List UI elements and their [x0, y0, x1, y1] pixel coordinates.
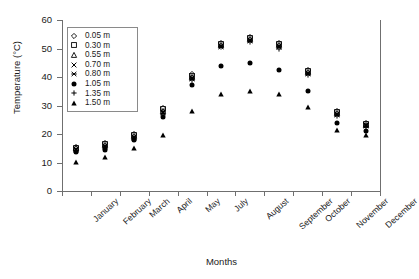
legend-label: 0.55 m — [85, 50, 110, 60]
data-point — [73, 159, 79, 165]
data-point — [247, 88, 253, 94]
data-point — [305, 88, 311, 94]
legend-label: 0.30 m — [85, 41, 110, 51]
data-point — [305, 72, 311, 78]
y-tick — [57, 134, 62, 135]
data-point — [131, 136, 137, 142]
x-tick — [235, 191, 236, 196]
y-tick-label: 50 — [18, 44, 52, 54]
plot-right-border — [380, 20, 381, 192]
chart-legend: 0.05 m0.30 m0.55 m0.70 m0.80 m1.05 m1.35… — [67, 27, 138, 112]
data-point — [131, 145, 137, 151]
data-point — [305, 104, 311, 110]
cross-icon — [71, 62, 84, 68]
y-tick-label: 40 — [18, 72, 52, 82]
data-point — [334, 127, 340, 133]
data-point — [102, 154, 108, 160]
legend-item: 1.35 m — [71, 89, 133, 99]
legend-item: 0.80 m — [71, 69, 133, 79]
data-point — [189, 108, 195, 114]
legend-label: 1.50 m — [85, 98, 110, 108]
y-tick — [57, 49, 62, 50]
open-diamond-icon — [71, 33, 84, 39]
data-point — [218, 91, 224, 97]
x-tick — [149, 191, 150, 196]
filled-circle-icon — [71, 81, 84, 87]
legend-label: 1.35 m — [85, 89, 110, 99]
x-tick — [120, 191, 121, 196]
data-point — [247, 39, 253, 45]
legend-item: 0.70 m — [71, 60, 133, 70]
y-tick-label: 20 — [18, 129, 52, 139]
x-tick — [178, 191, 179, 196]
x-tick — [351, 191, 352, 196]
x-tick-label: May — [203, 196, 222, 214]
y-axis-title: Temperature (°C) — [11, 18, 22, 138]
open-square-icon — [71, 42, 84, 48]
data-point — [363, 132, 369, 138]
x-tick-label: January — [91, 196, 120, 224]
y-tick-label: 0 — [18, 186, 52, 196]
plus-icon — [71, 90, 84, 96]
x-axis-title: Months — [62, 256, 381, 267]
y-tick-label: 30 — [18, 101, 52, 111]
data-point — [189, 77, 195, 83]
data-point — [102, 145, 108, 151]
data-point — [218, 63, 224, 69]
x-tick — [91, 191, 92, 196]
y-tick — [57, 163, 62, 164]
data-point — [160, 111, 166, 117]
x-axis-line — [62, 191, 381, 192]
data-point — [218, 44, 224, 50]
x-tick — [264, 191, 265, 196]
legend-item: 0.55 m — [71, 50, 133, 60]
legend-label: 1.05 m — [85, 79, 110, 89]
data-point — [334, 113, 340, 119]
open-triangle-icon — [71, 52, 84, 58]
y-tick-label: 60 — [18, 15, 52, 25]
legend-label: 0.05 m — [85, 31, 110, 41]
data-point — [276, 67, 282, 73]
legend-item: 1.50 m — [71, 98, 133, 108]
filled-triangle-icon — [71, 100, 84, 106]
legend-label: 0.80 m — [85, 69, 110, 79]
legend-item: 0.30 m — [71, 41, 133, 51]
x-tick-label: July — [232, 196, 250, 214]
y-axis-line — [62, 20, 63, 192]
x-tick-label: March — [147, 196, 171, 219]
x-tick-label: April — [175, 196, 194, 215]
data-point — [73, 148, 79, 154]
legend-item: 1.05 m — [71, 79, 133, 89]
data-point — [247, 60, 253, 66]
legend-label: 0.70 m — [85, 60, 110, 70]
x-tick — [207, 191, 208, 196]
y-tick-label: 10 — [18, 158, 52, 168]
data-point — [276, 91, 282, 97]
legend-item: 0.05 m — [71, 31, 133, 41]
y-tick — [57, 106, 62, 107]
y-tick — [57, 20, 62, 21]
y-tick — [57, 77, 62, 78]
x-tick — [322, 191, 323, 196]
data-point — [276, 46, 282, 52]
x-tick — [293, 191, 294, 196]
x-tick — [380, 191, 381, 196]
x-tick — [62, 191, 63, 196]
data-point — [334, 120, 340, 126]
x-tick-label: August — [264, 196, 291, 221]
star-icon — [71, 71, 84, 77]
data-point — [160, 132, 166, 138]
data-point — [363, 124, 369, 130]
